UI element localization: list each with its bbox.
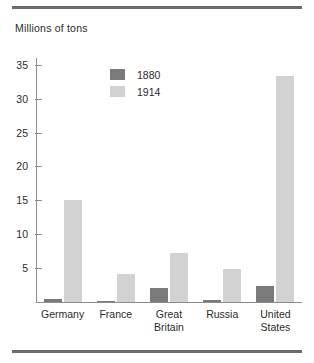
y-axis-tick-label: 30 xyxy=(0,93,28,105)
bar-chart-figure: Millions of tons 5101520253035GermanyFra… xyxy=(0,0,314,363)
bar-1880[interactable] xyxy=(150,288,168,302)
bar-1880[interactable] xyxy=(97,301,115,303)
top-divider-rule xyxy=(12,6,302,9)
legend-item-1880: 1880 xyxy=(110,66,160,83)
y-axis-tick-label: 35 xyxy=(0,59,28,71)
bar-1914[interactable] xyxy=(223,269,241,302)
y-axis-tick-label: 25 xyxy=(0,127,28,139)
y-axis-tick-label: 10 xyxy=(0,228,28,240)
x-axis-line xyxy=(36,302,302,303)
legend-item-1914: 1914 xyxy=(110,83,160,100)
bar-group xyxy=(36,58,89,302)
y-axis-tick-label: 5 xyxy=(0,262,28,274)
x-axis-category-label: France xyxy=(89,308,142,321)
bar-1880[interactable] xyxy=(203,300,221,302)
bar-1880[interactable] xyxy=(256,286,274,302)
x-axis-category-label: Russia xyxy=(196,308,249,321)
chart-legend: 1880 1914 xyxy=(110,66,160,100)
bar-group xyxy=(196,58,249,302)
legend-label-1914: 1914 xyxy=(137,86,160,98)
y-axis-tick-label: 20 xyxy=(0,160,28,172)
legend-label-1880: 1880 xyxy=(137,69,160,81)
bottom-divider-rule xyxy=(12,350,302,353)
bar-1914[interactable] xyxy=(170,253,188,302)
plot-area: 5101520253035GermanyFranceGreat BritainR… xyxy=(36,58,302,302)
bar-1914[interactable] xyxy=(117,274,135,302)
x-axis-category-label: United States xyxy=(249,308,302,333)
x-axis-category-label: Great Britain xyxy=(142,308,195,333)
y-axis-title: Millions of tons xyxy=(15,22,88,34)
y-axis-tick-label: 15 xyxy=(0,194,28,206)
bar-1914[interactable] xyxy=(276,76,294,302)
x-axis-category-label: Germany xyxy=(36,308,89,321)
bar-1914[interactable] xyxy=(64,200,82,302)
legend-swatch-1880 xyxy=(110,69,125,80)
legend-swatch-1914 xyxy=(110,86,125,97)
bar-group xyxy=(249,58,302,302)
bar-1880[interactable] xyxy=(44,299,62,302)
